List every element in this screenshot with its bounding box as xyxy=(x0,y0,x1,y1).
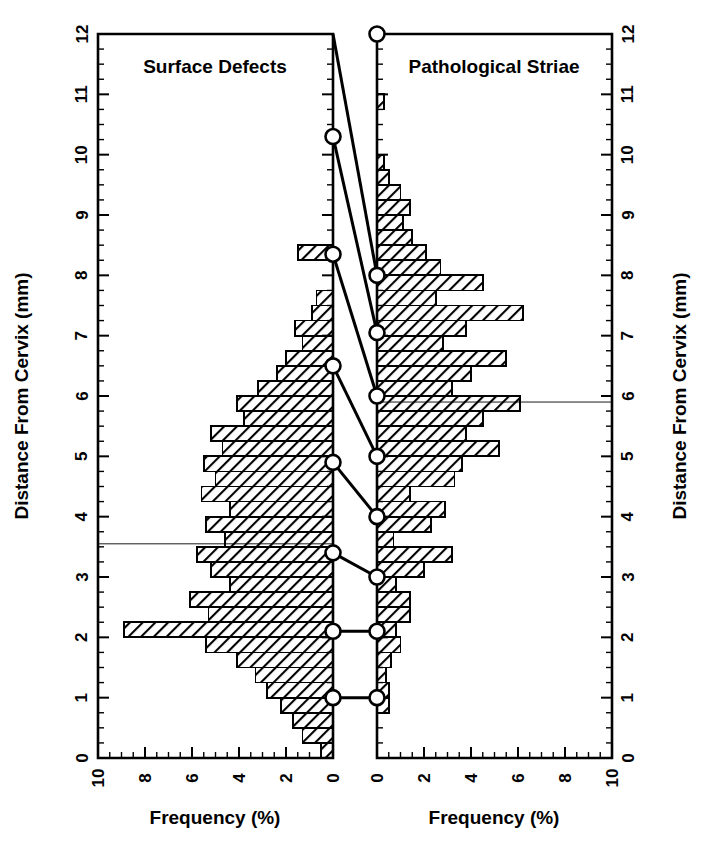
data-point-marker xyxy=(326,358,341,373)
y-axis-tick-label: 9 xyxy=(619,210,638,219)
histogram-bar xyxy=(225,532,333,547)
x-axis-tick-label: 0 xyxy=(368,773,387,782)
histogram-bar xyxy=(295,321,333,336)
histogram-bar xyxy=(230,502,333,517)
histogram-bar xyxy=(377,185,401,200)
y-axis-tick-label: 3 xyxy=(619,572,638,581)
histogram-bar xyxy=(377,592,410,607)
x-axis-tick-label: 6 xyxy=(183,773,202,782)
histogram-bar xyxy=(216,471,334,486)
histogram-bar xyxy=(377,471,455,486)
data-point-marker xyxy=(370,509,385,524)
data-point-marker xyxy=(326,129,341,144)
y-axis-tick-label: 9 xyxy=(73,210,92,219)
y-axis-tick-label: 5 xyxy=(73,452,92,461)
x-axis-tick-label: 10 xyxy=(603,769,622,788)
x-axis-tick-label: 8 xyxy=(556,773,575,782)
data-point-marker xyxy=(370,27,385,42)
histogram-bar xyxy=(377,170,389,185)
x-axis-tick-label: 10 xyxy=(89,769,108,788)
data-point-marker xyxy=(326,624,341,639)
data-point-marker xyxy=(326,545,341,560)
population-pyramid-chart: 0123456789101112 1086420 Surface Defects… xyxy=(0,0,710,854)
histogram-bar xyxy=(377,411,483,426)
right-x-axis-title: Frequency (%) xyxy=(429,807,560,828)
histogram-bar xyxy=(237,652,333,667)
data-point-marker xyxy=(370,624,385,639)
histogram-bar xyxy=(377,607,410,622)
histogram-bar xyxy=(302,728,333,743)
histogram-bar xyxy=(258,381,333,396)
y-axis-tick-label: 11 xyxy=(619,85,638,103)
left-x-axis-title: Frequency (%) xyxy=(150,807,281,828)
histogram-bar xyxy=(230,577,333,592)
right-y-axis-title: Distance From Cervix (mm) xyxy=(669,272,690,519)
histogram-bar xyxy=(237,396,333,411)
y-axis-tick-label: 10 xyxy=(73,145,92,164)
x-axis-tick-label: 4 xyxy=(462,773,481,783)
histogram-bar xyxy=(293,713,333,728)
data-point-marker xyxy=(370,690,385,705)
histogram-bar xyxy=(211,426,333,441)
histogram-bar xyxy=(377,426,466,441)
histogram-bar xyxy=(377,321,466,336)
histogram-bar xyxy=(302,336,333,351)
histogram-bar xyxy=(377,230,412,245)
x-axis-tick-label: 6 xyxy=(509,773,528,782)
histogram-bar xyxy=(321,743,333,758)
histogram-bar xyxy=(377,306,523,321)
histogram-bar xyxy=(377,487,410,502)
x-axis-tick-label: 2 xyxy=(415,773,434,782)
histogram-bar xyxy=(377,502,445,517)
histogram-bar xyxy=(244,411,333,426)
histogram-bar xyxy=(255,668,333,683)
data-point-marker xyxy=(326,455,341,470)
histogram-bar xyxy=(206,637,333,652)
histogram-bar xyxy=(201,487,333,502)
y-axis-tick-label: 12 xyxy=(73,25,92,44)
y-axis-tick-label: 7 xyxy=(619,331,638,340)
histogram-bar xyxy=(377,336,443,351)
histogram-bar xyxy=(377,668,386,683)
y-axis-tick-label: 11 xyxy=(73,85,92,103)
y-axis-tick-label: 8 xyxy=(73,271,92,280)
figure-container: 0123456789101112 1086420 Surface Defects… xyxy=(0,0,710,854)
y-axis-tick-label: 3 xyxy=(73,572,92,581)
histogram-bar xyxy=(377,381,452,396)
histogram-bar xyxy=(377,456,462,471)
y-axis-tick-label: 0 xyxy=(619,753,638,762)
y-axis-tick-label: 1 xyxy=(619,693,638,702)
y-axis-tick-label: 5 xyxy=(619,452,638,461)
y-axis-tick-label: 2 xyxy=(73,633,92,642)
data-point-marker xyxy=(370,268,385,283)
data-point-marker xyxy=(370,570,385,585)
x-axis-tick-label: 2 xyxy=(277,773,296,782)
histogram-bar xyxy=(211,562,333,577)
histogram-bar xyxy=(197,547,333,562)
histogram-bar xyxy=(312,306,333,321)
left-panel-title: Surface Defects xyxy=(143,56,287,77)
histogram-bar xyxy=(208,607,333,622)
y-axis-tick-label: 1 xyxy=(73,693,92,702)
x-axis-tick-label: 0 xyxy=(324,773,343,782)
y-axis-tick-label: 8 xyxy=(619,271,638,280)
histogram-bar xyxy=(377,547,452,562)
x-axis-tick-label: 8 xyxy=(136,773,155,782)
data-point-marker xyxy=(370,325,385,340)
histogram-bar xyxy=(377,260,440,275)
histogram-bar xyxy=(377,215,403,230)
histogram-bar xyxy=(223,441,333,456)
right-panel-title: Pathological Striae xyxy=(408,56,579,77)
histogram-bar xyxy=(206,517,333,532)
y-axis-tick-label: 4 xyxy=(73,511,92,521)
chart-background xyxy=(0,0,710,854)
histogram-bar xyxy=(317,290,333,305)
data-point-marker xyxy=(326,690,341,705)
histogram-bar xyxy=(377,275,483,290)
y-axis-tick-label: 7 xyxy=(73,331,92,340)
histogram-bar xyxy=(377,532,393,547)
y-axis-tick-label: 2 xyxy=(619,633,638,642)
y-axis-tick-label: 6 xyxy=(619,391,638,400)
histogram-bar xyxy=(377,366,471,381)
y-axis-tick-label: 10 xyxy=(619,145,638,164)
